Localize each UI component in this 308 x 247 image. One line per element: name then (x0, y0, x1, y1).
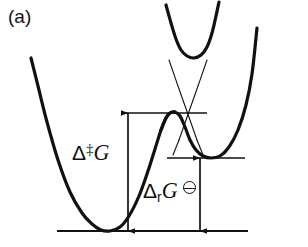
reaction-free-energy-label: ΔrG (143, 178, 198, 205)
diabatic-crossing-lines (169, 60, 207, 155)
energy-level-lines (57, 113, 248, 231)
free-energy-diagram-figure: (a) Δ‡G ΔrG (0, 0, 308, 247)
standard-state-plimsoll-icon (183, 181, 198, 196)
gibbs-energy-symbol: G (94, 140, 110, 165)
delta-symbol: Δ (143, 179, 157, 202)
product-well-adiabatic-branch (161, 28, 257, 158)
double-dagger-icon: ‡ (86, 141, 94, 157)
activation-free-energy-label: Δ‡G (72, 140, 110, 166)
gibbs-energy-symbol: G (162, 178, 178, 203)
delta-symbol: Δ (72, 141, 86, 164)
upper-excited-state-parabola (166, 2, 219, 58)
diagram-canvas (0, 0, 308, 247)
diabatic-line-product-lower (173, 140, 179, 155)
measurement-arrows (128, 113, 200, 231)
